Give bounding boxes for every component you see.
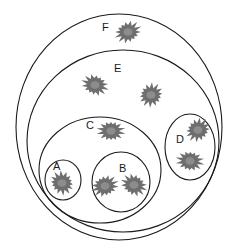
set-f-label: F [102,21,109,33]
set-c-label: C [86,119,94,131]
set-e-label: E [114,62,121,74]
spiky-element-icon [97,122,126,140]
set-b-label: B [119,162,126,174]
nested-sets-diagram: FECABD [0,0,237,250]
spiky-element-icon [140,82,162,108]
labels-layer: FECABD [53,21,184,174]
set-d-label: D [176,133,184,145]
spiky-element-icon [91,175,118,197]
set-e-boundary [27,50,219,232]
spiky-element-icon [121,174,147,197]
spiky-element-icon [51,170,73,196]
spiky-element-icon [176,152,205,171]
set-a-label: A [53,160,61,172]
spiky-element-icon [81,74,109,96]
elements-layer [51,21,210,197]
set-d-boundary [165,114,215,180]
spiky-element-icon [115,21,141,44]
